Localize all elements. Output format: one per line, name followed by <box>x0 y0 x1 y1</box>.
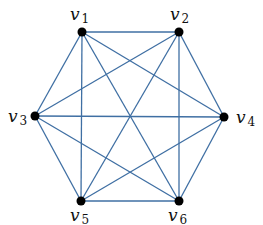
vertex-label-v6: v6 <box>168 205 187 225</box>
vertex-label-v1: v1 <box>70 4 89 26</box>
edge-v3-v6 <box>35 116 179 201</box>
edge-v4-v5 <box>81 117 224 201</box>
graph-diagram: v1v2v3v4v5v6 <box>0 0 263 225</box>
vertex-label-v5: v5 <box>70 205 89 225</box>
vertex-v2 <box>175 28 184 37</box>
vertex-label-v3: v3 <box>8 106 27 128</box>
edges-group <box>35 32 224 201</box>
vertex-v4 <box>220 113 229 122</box>
vertex-label-v4: v4 <box>236 107 256 129</box>
vertex-v1 <box>78 28 87 37</box>
edge-v3-v4 <box>35 116 224 117</box>
edge-v1-v3 <box>35 32 82 116</box>
vertex-v3 <box>31 112 40 121</box>
edge-v3-v5 <box>35 116 81 201</box>
vertex-label-v2: v2 <box>170 4 189 26</box>
edge-v2-v3 <box>35 32 179 116</box>
edge-v1-v4 <box>82 32 224 117</box>
